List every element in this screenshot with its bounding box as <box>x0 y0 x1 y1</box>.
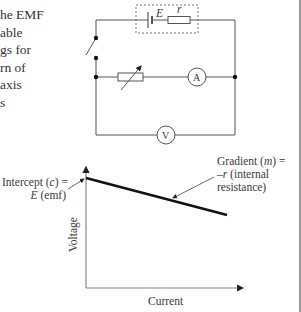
gradient-annotation: Gradient (m) = –r (internal resistance) <box>217 155 285 194</box>
intercept-annotation: Intercept (c) = E (emf) <box>2 176 66 202</box>
internal-resistor-label: r <box>177 3 181 16</box>
internal-resistor-icon <box>168 17 190 24</box>
battery-label: E <box>156 7 163 20</box>
data-line <box>86 178 227 215</box>
variable-resistor-icon <box>118 66 143 90</box>
voltmeter-label: V <box>162 129 169 142</box>
y-axis-label: Voltage <box>67 210 80 260</box>
switch-icon <box>86 38 96 55</box>
circuit-diagram <box>86 5 235 144</box>
gradient-pointer <box>173 177 214 198</box>
battery-icon <box>148 12 152 28</box>
intercept-pointer <box>68 179 84 189</box>
x-axis-label: Current <box>148 295 183 308</box>
ammeter-label: A <box>193 71 200 84</box>
junction-dots <box>94 36 237 79</box>
